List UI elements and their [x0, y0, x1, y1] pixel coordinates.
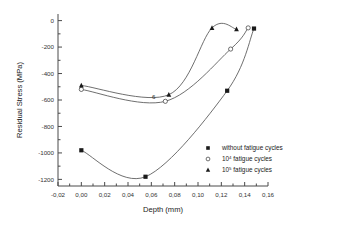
x-tick-label: 0,02 — [99, 191, 112, 198]
data-point-marker — [225, 89, 229, 93]
series-curve — [81, 23, 236, 97]
y-tick-label: -200 — [42, 43, 55, 50]
x-tick-label: 0,16 — [262, 191, 275, 198]
y-tick-label: -800 — [42, 123, 55, 130]
residual-stress-chart: 0-200-400-600-800-1000-1200 -0,020,000,0… — [0, 0, 340, 228]
x-tick-label: 0,00 — [75, 191, 88, 198]
x-tick-label: 0,06 — [145, 191, 158, 198]
series-curve — [81, 28, 248, 103]
data-point-marker — [252, 26, 256, 30]
x-tick-label: 0,04 — [122, 191, 135, 198]
x-axis-ticks: -0,020,000,020,040,060,080,100,120,140,1… — [51, 182, 275, 198]
data-point-marker — [229, 47, 233, 51]
data-point-marker — [246, 26, 250, 30]
y-tick-label: -400 — [42, 70, 55, 77]
legend-marker — [206, 168, 210, 172]
data-point-marker — [166, 92, 171, 97]
x-tick-label: -0,02 — [51, 191, 66, 198]
x-tick-label: 0,10 — [192, 191, 205, 198]
data-point-marker — [79, 83, 84, 88]
legend-label: 104 fatigue cycles — [222, 155, 272, 163]
x-tick-label: 0,14 — [239, 191, 252, 198]
legend-label: 105 fatigue cycles — [222, 166, 272, 174]
x-axis-title: Depth (mm) — [143, 205, 184, 214]
data-point-marker — [163, 99, 167, 103]
legend-marker — [206, 157, 210, 161]
x-tick-label: 0,12 — [215, 191, 228, 198]
data-point-marker — [79, 87, 83, 91]
curve-annotation-6: 6 — [152, 93, 156, 100]
x-tick-label: 0,08 — [169, 191, 182, 198]
y-tick-label: -1200 — [38, 176, 54, 183]
legend-label: without fatigue cycles — [221, 144, 283, 152]
data-point-marker — [79, 148, 83, 152]
chart-legend: without fatigue cycles104 fatigue cycles… — [206, 144, 283, 174]
y-tick-label: -1000 — [38, 149, 54, 156]
data-point-marker — [143, 175, 147, 179]
y-tick-label: -600 — [42, 96, 55, 103]
y-axis-title: Residual Stress (MPa) — [15, 62, 24, 138]
y-tick-label: 0 — [51, 17, 55, 24]
chart-container: 0-200-400-600-800-1000-1200 -0,020,000,0… — [0, 0, 340, 228]
legend-marker — [206, 146, 210, 150]
